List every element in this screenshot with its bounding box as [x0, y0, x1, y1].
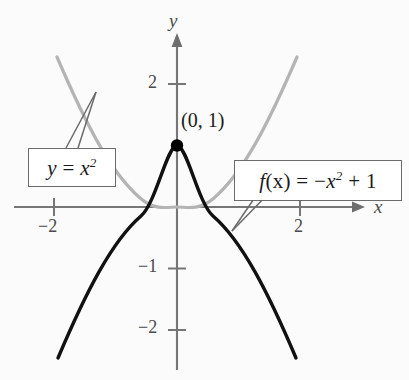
- black-callout-arg: (x): [265, 169, 290, 193]
- gray-curve-callout-box: y = x2: [28, 148, 116, 187]
- parabola-figure: y x −2 2 2 −1 −2 (0, 1) y = x2 f(x) = −x…: [0, 0, 409, 380]
- black-callout-base: x: [326, 169, 336, 193]
- y-tick-label-2: 2: [148, 72, 157, 93]
- gray-callout-base: x: [80, 156, 90, 180]
- black-curve-callout-text: f(x) = −x2 + 1: [259, 168, 376, 194]
- vertex-point-dot: [171, 139, 183, 151]
- gray-callout-lhs: y: [47, 156, 57, 180]
- x-tick-label-2: 2: [294, 216, 303, 237]
- gray-curve-callout-text: y = x2: [47, 155, 96, 181]
- vertex-point-label: (0, 1): [181, 109, 224, 132]
- gray-callout-leader-lines: [66, 92, 96, 148]
- black-callout-exponent: 2: [336, 168, 343, 183]
- y-tick-label-neg1: −1: [138, 256, 157, 277]
- black-callout-eq: =: [291, 169, 314, 193]
- black-callout-sign: −: [314, 169, 326, 193]
- gray-callout-eq: =: [57, 156, 80, 180]
- gray-callout-exponent: 2: [90, 155, 97, 170]
- black-callout-tail: + 1: [343, 169, 377, 193]
- y-tick-label-neg2: −2: [138, 317, 157, 338]
- black-curve-callout-box: f(x) = −x2 + 1: [234, 160, 402, 201]
- y-axis-label: y: [169, 10, 177, 32]
- x-tick-label-neg2: −2: [38, 216, 57, 237]
